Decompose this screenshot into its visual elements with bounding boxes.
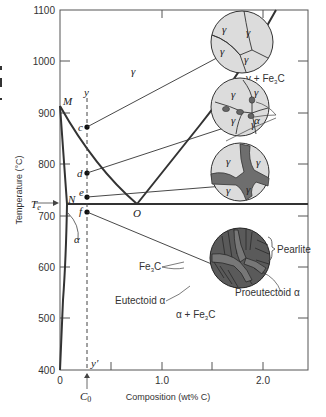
- x-axis-label: Composition (wt% C): [126, 392, 211, 402]
- y-tick-600: 600: [38, 262, 55, 273]
- y-tick-500: 500: [38, 313, 55, 324]
- label-M: M: [62, 95, 73, 107]
- label-e: e: [79, 186, 84, 198]
- label-alpha-callout: α: [254, 114, 260, 126]
- label-O: O: [133, 207, 141, 219]
- y-tick-900: 900: [38, 108, 55, 119]
- label-y-prime: y′: [90, 357, 99, 369]
- region-gamma: γ: [131, 65, 136, 77]
- fe3c-callout: [162, 267, 184, 269]
- fe3c-callout: [162, 262, 184, 267]
- label-N: N: [67, 193, 76, 205]
- microstructure-c: γ γ γ γ: [211, 11, 273, 73]
- y-tick-1000: 1000: [33, 56, 56, 67]
- c0-arrow-icon: [84, 373, 90, 378]
- leader-e: [87, 186, 224, 197]
- label-eutectoid-alpha: Eutectoid α: [115, 295, 165, 306]
- microstructure-f: [210, 228, 270, 288]
- label-y: y: [83, 86, 89, 98]
- region-alpha-fe3c: α + Fe3C: [176, 309, 215, 321]
- y-tick-700: 700: [38, 211, 55, 222]
- grain-gamma: γ: [246, 26, 251, 38]
- grain-gamma: γ: [256, 156, 261, 168]
- label-C0: C0: [80, 390, 91, 404]
- grain-gamma: γ: [222, 23, 227, 35]
- grain-gamma: γ: [226, 155, 231, 167]
- grain-gamma: γ: [231, 114, 236, 126]
- phase-diagram: 1100 1000 900 800 700 600 500 400 0 1.0 …: [0, 0, 326, 417]
- y-axis-label: Temperature (°C): [14, 155, 24, 224]
- x-tick-1: 1.0: [155, 375, 169, 386]
- label-fe3c: Fe3C: [139, 261, 161, 273]
- clipped-caption-fragment: [0, 66, 2, 100]
- eutectoid-alpha-callout: [166, 286, 190, 301]
- label-c: c: [78, 121, 83, 133]
- y-tick-800: 800: [38, 159, 55, 170]
- x-tick-2: 2.0: [256, 375, 270, 386]
- x-tick-0: 0: [57, 375, 63, 386]
- label-Te: Te: [31, 198, 41, 212]
- label-f: f: [79, 205, 84, 217]
- grain-gamma: γ: [220, 45, 225, 57]
- microstructure-d: γ γ γ γ: [211, 78, 269, 136]
- y-tick-400: 400: [38, 365, 55, 376]
- grain-gamma: γ: [254, 86, 259, 98]
- label-d: d: [77, 167, 83, 179]
- grain-gamma: γ: [246, 183, 251, 195]
- region-alpha: α: [74, 233, 80, 245]
- label-pearlite: Pearlite: [277, 244, 311, 255]
- microstructure-e: γ γ γ γ: [211, 143, 269, 201]
- te-arrow-icon: [53, 200, 59, 206]
- alpha-solvus-line: [60, 106, 67, 370]
- label-proeutectoid-alpha: Proeutectoid α: [235, 287, 300, 298]
- grain-gamma: γ: [231, 88, 236, 100]
- grain-gamma: γ: [226, 184, 231, 196]
- leader-d: [87, 128, 224, 173]
- y-tick-1100: 1100: [33, 5, 55, 16]
- grain-gamma: γ: [244, 53, 249, 65]
